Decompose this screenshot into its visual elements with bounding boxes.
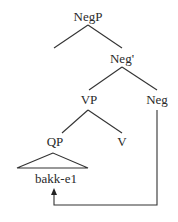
branch-negbar-neg [122,67,157,90]
node-neg: Neg [146,92,168,107]
node-negbar: Neg' [110,51,134,66]
branch-negbar-vp [89,67,122,90]
node-vp: VP [81,92,98,107]
arrowhead-icon [51,188,57,195]
node-qp: QP [47,134,64,149]
movement-arrow-line [54,110,157,205]
node-negp: NegP [74,9,103,24]
branch-negp-spec [54,25,88,48]
branch-vp-v [88,110,122,133]
branch-negp-negbar [88,25,122,48]
syntax-tree-diagram: NegP Neg' VP Neg QP V bakk-e1 [0,0,178,222]
terminal-bakk-e1: bakk-e1 [35,171,77,186]
qp-triangle [17,153,88,168]
node-v: V [117,134,127,149]
branch-vp-qp [62,110,88,133]
